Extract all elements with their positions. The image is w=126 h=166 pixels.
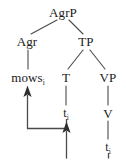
node-t-head: T — [62, 71, 70, 84]
node-trace-t: ti — [63, 107, 69, 119]
branch-tp-vp — [90, 50, 105, 69]
node-agrp-label: AgrP — [49, 5, 77, 20]
branch-agrp-agr — [31, 20, 57, 34]
node-agrp: AgrP — [49, 6, 77, 19]
node-mows-subscript: i — [43, 77, 45, 86]
node-tp: TP — [78, 35, 93, 48]
movement-path-t-to-agr — [28, 95, 67, 129]
node-t-head-label: T — [62, 70, 70, 85]
node-v-head-label: V — [103, 106, 113, 121]
node-mows: mowsi — [11, 71, 45, 84]
node-trace-t-label: t — [63, 106, 66, 120]
node-trace-v-label: t — [105, 140, 108, 154]
branch-agrp-tp — [69, 20, 83, 34]
node-v-head: V — [103, 107, 113, 120]
node-mows-label: mows — [11, 70, 42, 85]
node-trace-t-subscript: i — [67, 113, 69, 122]
branch-tp-t — [68, 50, 83, 69]
node-vp-label: VP — [100, 70, 117, 85]
node-vp: VP — [100, 71, 117, 84]
node-tp-label: TP — [78, 34, 93, 49]
node-agr: Agr — [17, 35, 38, 48]
node-agr-label: Agr — [17, 34, 38, 49]
node-trace-v-subscript: i — [109, 147, 111, 156]
node-trace-v: ti — [105, 141, 111, 153]
syntax-tree-diagram: AgrP Agr TP mowsi T VP ti V ti — [0, 0, 126, 166]
